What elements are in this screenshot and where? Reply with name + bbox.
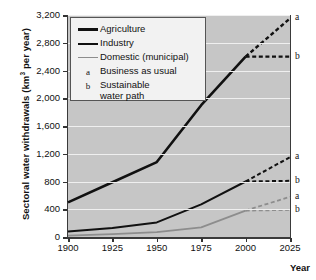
- y-tick-label: 0: [26, 232, 60, 242]
- projection-agriculture-a: [246, 18, 290, 56]
- projection-label-a: a: [295, 12, 299, 22]
- legend-item-domestic: Domestic (municipal): [71, 51, 205, 65]
- legend-swatch-industry-icon: [76, 37, 100, 50]
- legend-label-business-as-usual: Business as usual: [100, 65, 177, 76]
- legend-label-sustainable-water-path: Sustainable water path: [100, 79, 150, 101]
- y-tick-mark: [63, 15, 67, 17]
- legend-key-b-char: b: [86, 81, 91, 91]
- legend-item-business-as-usual: a Business as usual: [71, 65, 205, 79]
- y-axis-title-superscript: 3: [19, 72, 26, 76]
- legend-label-industry: Industry: [100, 37, 134, 48]
- legend-item-industry: Industry: [71, 37, 205, 51]
- x-tick-mark: [201, 238, 203, 242]
- x-tick-mark: [157, 238, 159, 242]
- y-tick-mark: [63, 209, 67, 211]
- legend-label-domestic: Domestic (municipal): [100, 51, 189, 62]
- legend-key-a-char: a: [86, 67, 90, 77]
- x-tick-mark: [290, 238, 292, 242]
- x-tick-mark: [112, 238, 114, 242]
- y-tick-label: 400: [26, 204, 60, 214]
- projection-label-b: b: [295, 51, 300, 61]
- gridline: [68, 154, 290, 155]
- x-tick-label: 1900: [45, 242, 91, 253]
- x-tick-label: 2000: [223, 242, 269, 253]
- y-tick-label: 2,000: [26, 93, 60, 103]
- x-tick-mark: [68, 238, 70, 242]
- y-tick-mark: [63, 126, 67, 128]
- y-axis-tick-labels: 04008001,2001,6002,0002,4002,8003,200: [26, 0, 60, 280]
- y-tick-label: 1,600: [26, 121, 60, 131]
- y-tick-label: 2,400: [26, 66, 60, 76]
- projection-label-b: b: [295, 175, 300, 185]
- y-tick-label: 3,200: [26, 10, 60, 20]
- projection-label-a: a: [295, 191, 299, 201]
- x-tick-label: 2025: [267, 242, 313, 253]
- projection-label-a: a: [295, 151, 299, 161]
- legend-swatch-agriculture-icon: [76, 23, 100, 36]
- legend-label-agriculture: Agriculture: [100, 23, 145, 34]
- legend-item-sustainable-water-path: b Sustainable water path: [71, 79, 205, 101]
- gridline: [68, 15, 290, 16]
- gridline: [68, 209, 290, 210]
- legend-key-b: b: [76, 79, 100, 92]
- y-tick-mark: [63, 182, 67, 184]
- y-tick-label: 800: [26, 177, 60, 187]
- legend-key-a: a: [76, 65, 100, 78]
- y-tick-mark: [63, 71, 67, 73]
- y-tick-label: 2,800: [26, 38, 60, 48]
- chart-figure: Sectoral water withdrawals (km3 per year…: [0, 0, 316, 280]
- x-tick-label: 1975: [178, 242, 224, 253]
- chart-legend: Agriculture Industry Domestic (municipal…: [70, 17, 206, 101]
- x-tick-label: 1925: [89, 242, 135, 253]
- y-tick-mark: [63, 98, 67, 100]
- x-axis-line: [67, 237, 291, 239]
- x-tick-mark: [246, 238, 248, 242]
- x-tick-label: 1950: [134, 242, 180, 253]
- y-tick-label: 1,200: [26, 149, 60, 159]
- y-tick-mark: [63, 43, 67, 45]
- y-tick-mark: [63, 154, 67, 156]
- legend-item-agriculture: Agriculture: [71, 23, 205, 37]
- x-axis-title: Year: [290, 262, 310, 273]
- projection-industry-a: [246, 157, 290, 181]
- y-tick-mark: [63, 237, 67, 239]
- legend-swatch-domestic-icon: [76, 51, 100, 64]
- gridline: [68, 126, 290, 127]
- gridline: [68, 182, 290, 183]
- projection-label-b: b: [295, 204, 300, 214]
